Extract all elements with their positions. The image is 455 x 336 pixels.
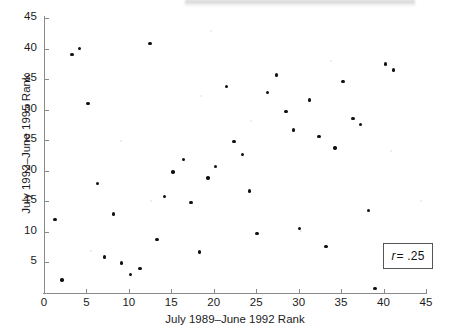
data-point	[53, 218, 56, 221]
texture-speck	[250, 120, 252, 122]
data-point	[155, 238, 158, 241]
data-point	[171, 170, 174, 173]
correlation-value: = .25	[397, 249, 425, 263]
data-point	[198, 250, 201, 253]
y-tick-label: 45	[11, 10, 37, 22]
texture-speck	[420, 200, 422, 202]
correlation-annotation-text: r = .25	[384, 244, 432, 268]
x-tick-label: 5	[71, 296, 101, 308]
data-point	[182, 158, 185, 161]
data-point	[373, 287, 376, 290]
data-point	[359, 123, 362, 126]
x-tick-mark	[426, 289, 427, 294]
data-point	[189, 201, 192, 204]
x-tick-label: 10	[114, 296, 144, 308]
x-axis-line	[43, 293, 427, 294]
y-axis-title-wrapper: July 1992–June 1995 Rank	[18, 34, 34, 254]
y-axis-title: July 1992–June 1995 Rank	[18, 34, 34, 254]
data-point	[324, 245, 327, 248]
cropped-title-artifact	[185, 0, 415, 7]
data-point	[129, 273, 132, 276]
texture-speck	[330, 60, 332, 62]
data-point	[284, 110, 287, 113]
texture-speck	[200, 95, 202, 97]
data-point	[351, 117, 354, 120]
data-point	[392, 68, 395, 71]
data-point	[341, 80, 344, 83]
data-point	[308, 98, 311, 101]
x-tick-label: 45	[411, 296, 441, 308]
x-tick-label: 0	[29, 296, 59, 308]
data-point	[112, 212, 115, 215]
data-point	[148, 42, 151, 45]
data-point	[241, 153, 244, 156]
data-point	[367, 209, 370, 212]
x-tick-label: 20	[199, 296, 229, 308]
x-tick-label: 15	[156, 296, 186, 308]
data-point	[266, 91, 269, 94]
texture-speck	[150, 200, 152, 202]
correlation-annotation-box: r = .25	[383, 243, 433, 269]
texture-speck	[90, 250, 92, 252]
data-point	[317, 135, 320, 138]
data-point	[86, 102, 89, 105]
x-tick-label: 30	[284, 296, 314, 308]
data-point	[214, 165, 217, 168]
data-point	[255, 232, 258, 235]
data-point	[138, 267, 141, 270]
data-point	[384, 62, 387, 65]
data-point	[248, 189, 251, 192]
x-tick-label: 25	[241, 296, 271, 308]
x-axis-title: July 1989–June 1992 Rank	[44, 313, 426, 325]
data-point	[232, 140, 235, 143]
texture-speck	[300, 230, 302, 232]
data-point	[225, 85, 228, 88]
y-tick-label: 5	[11, 254, 37, 266]
data-point	[60, 278, 63, 281]
data-point	[163, 195, 166, 198]
x-tick-label: 40	[369, 296, 399, 308]
texture-speck	[390, 150, 392, 152]
data-point	[292, 128, 295, 131]
scatterplot-figure: 051015202530354045 51015202530354045 Jul…	[0, 0, 455, 336]
data-point	[103, 255, 106, 258]
plot-area	[44, 18, 426, 293]
data-point	[78, 47, 81, 50]
data-point	[96, 182, 99, 185]
data-point	[120, 261, 123, 264]
texture-speck	[210, 30, 212, 32]
data-point	[70, 53, 73, 56]
data-point	[333, 146, 336, 149]
texture-speck	[120, 140, 122, 142]
x-tick-label: 35	[326, 296, 356, 308]
data-point	[206, 176, 209, 179]
data-point	[275, 73, 278, 76]
